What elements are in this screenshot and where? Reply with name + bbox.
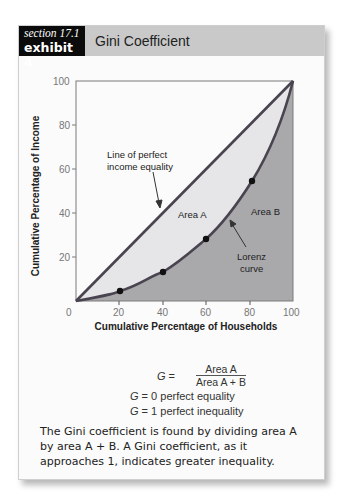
x-tick-0: 0 [66,307,72,318]
x-tick-80: 80 [244,307,256,318]
marker-80 [249,178,255,184]
equality-arrow-head-icon [156,200,162,208]
x-tick-100: 100 [283,307,300,318]
formula-lhs: G = [157,370,175,382]
formula-inequality-text: = 1 perfect inequality [139,405,244,417]
x-tick-60: 60 [200,307,212,318]
marker-60 [203,236,209,242]
x-tick-40: 40 [157,307,169,318]
x-tick-20: 20 [113,307,125,318]
y-ticks [72,125,76,257]
formula-denominator: Area A + B [196,376,246,388]
equality-label-line1: Line of perfect [107,149,168,160]
x-axis-label: Cumulative Percentage of Households [95,321,278,332]
lorenz-label-line1: Lorenz [237,251,266,262]
y-tick-100: 100 [53,76,70,87]
formula-equality-line: G = 0 perfect equality [130,390,235,402]
equality-arrow [153,172,159,203]
formula-g-1: G [130,390,139,402]
formula-g: G [157,370,166,382]
area-a-label: Area A [178,209,207,220]
formula-equality-text: = 0 perfect equality [139,390,235,402]
y-axis-label: Cumulative Percentage of Income [30,115,41,276]
formula-fraction: Area A Area A + B [196,363,246,388]
area-b-label: Area B [251,206,280,217]
y-tick-20: 20 [59,252,71,263]
y-tick-60: 60 [59,164,71,175]
y-tick-80: 80 [59,120,71,131]
lorenz-label-line2: curve [240,263,263,274]
equality-label-line2: income equality [107,161,173,172]
formula-inequality-line: G = 1 perfect inequality [130,405,243,417]
y-tick-40: 40 [59,208,71,219]
x-ticks [119,301,250,305]
formula-numerator: Area A [196,363,246,376]
formula-g-2: G [130,405,139,417]
gini-chart: 100 80 60 40 20 0 20 40 60 80 100 Cumula… [0,0,337,497]
marker-20 [117,288,123,294]
exhibit-caption: The Gini coefficient is found by dividin… [40,424,300,469]
marker-40 [160,269,166,275]
formula-equals: = [166,370,175,382]
